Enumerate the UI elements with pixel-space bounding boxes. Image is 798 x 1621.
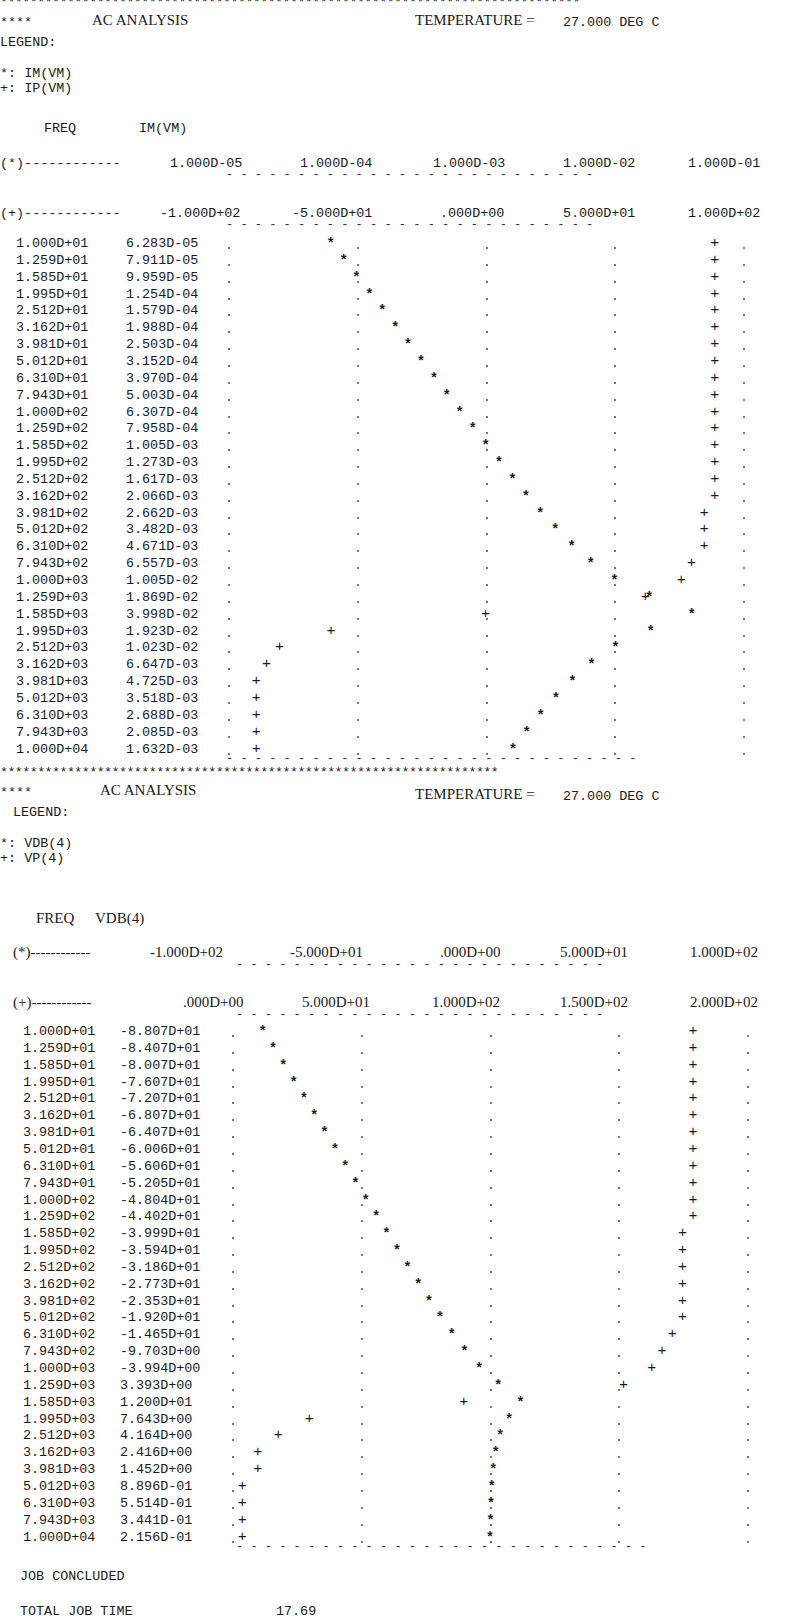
grid-dot: [490, 1321, 492, 1323]
grid-dot: [361, 1035, 363, 1037]
grid-dot: [232, 1237, 234, 1239]
grid-dot: [486, 635, 488, 637]
value-cell: 3.152D-04: [126, 353, 198, 370]
freq-cell: 7.943D+03: [23, 1512, 95, 1529]
grid-dot: [747, 1473, 749, 1475]
axis-plus-tick: .000D+00: [183, 994, 244, 1011]
star-marker: *: [349, 1176, 361, 1193]
plus-marker: +: [687, 1090, 699, 1107]
plus-marker: +: [687, 1208, 699, 1225]
plus-marker: +: [675, 572, 687, 589]
plus-marker: +: [709, 471, 721, 488]
grid-dot: [361, 1423, 363, 1425]
grid-dot: [357, 567, 359, 569]
grid-dot: [618, 1355, 620, 1357]
grid-dot: [486, 314, 488, 316]
value-cell: -3.594D+01: [120, 1242, 200, 1259]
freq-cell: 1.585D+03: [23, 1394, 95, 1411]
value-cell: 1.273D-03: [126, 454, 198, 471]
grid-dot: [232, 1541, 234, 1543]
plus-marker: +: [646, 1360, 658, 1377]
grid-dot: [490, 1305, 492, 1307]
grid-dot: [743, 416, 745, 418]
axis-plus-tick: 2.000D+02: [690, 994, 758, 1011]
grid-dot: [618, 1439, 620, 1441]
axis-dashes: - - - - - - - - - - - - - - - - - - - - …: [226, 218, 593, 232]
grid-dot: [743, 517, 745, 519]
star-marker: *: [441, 388, 453, 405]
grid-dot: [232, 1490, 234, 1492]
star-marker: *: [485, 1496, 497, 1513]
plus-marker: +: [709, 336, 721, 353]
axis-plus-prefix: (+)------------: [13, 994, 91, 1011]
plus-marker: +: [709, 286, 721, 303]
axis-dashes: - - - - - - - - - - - - - - - - - - - - …: [226, 168, 593, 182]
star-marker: *: [514, 1395, 526, 1412]
grid-dot: [486, 331, 488, 333]
grid-dot: [747, 1541, 749, 1543]
grid-dot: [361, 1237, 363, 1239]
grid-dot: [743, 264, 745, 266]
grid-dot: [490, 1204, 492, 1206]
star-marker: *: [492, 1378, 504, 1395]
grid-dot: [747, 1338, 749, 1340]
grid-dot: [228, 668, 230, 670]
grid-dot: [490, 1237, 492, 1239]
grid-dot: [618, 1473, 620, 1475]
grid-dot: [228, 500, 230, 502]
star-marker: *: [329, 1142, 341, 1159]
value-cell: 1.005D-03: [126, 437, 198, 454]
grid-dot: [618, 1119, 620, 1121]
grid-dot: [357, 601, 359, 603]
star-marker: *: [412, 1277, 424, 1294]
value-cell: -7.207D+01: [120, 1090, 200, 1107]
value-cell: -3.994D+00: [120, 1360, 200, 1377]
star-marker: *: [381, 1226, 393, 1243]
grid-dot: [743, 466, 745, 468]
grid-dot: [357, 500, 359, 502]
freq-cell: 3.981D+01: [23, 1124, 95, 1141]
value-cell: 1.617D-03: [126, 471, 198, 488]
freq-cell: 1.000D+01: [23, 1023, 95, 1040]
grid-dot: [357, 264, 359, 266]
plus-marker: +: [709, 437, 721, 454]
grid-dot: [747, 1204, 749, 1206]
star-marker: *: [494, 1428, 506, 1445]
temperature-label: TEMPERATURE =: [415, 786, 535, 803]
freq-cell: 5.012D+01: [23, 1141, 95, 1158]
grid-dot: [743, 584, 745, 586]
grid-dot: [228, 685, 230, 687]
axis-dashes-bottom: - - - - - - - - - - - - - - - - - - - - …: [236, 1540, 646, 1554]
value-cell: 6.647D-03: [126, 656, 198, 673]
grid-dot: [228, 584, 230, 586]
plus-marker: +: [686, 555, 698, 572]
grid-dot: [486, 685, 488, 687]
star-marker: *: [610, 640, 622, 657]
plus-marker: +: [709, 269, 721, 286]
temperature-value: 27.000 DEG C: [563, 788, 659, 805]
grid-dot: [228, 517, 230, 519]
value-cell: 2.688D-03: [126, 707, 198, 724]
grid-dot: [486, 702, 488, 704]
freq-cell: 2.512D+03: [23, 1427, 95, 1444]
plus-marker: +: [272, 1427, 284, 1444]
grid-dot: [486, 736, 488, 738]
freq-cell: 3.981D+03: [23, 1461, 95, 1478]
grid-dot: [361, 1456, 363, 1458]
grid-dot: [486, 483, 488, 485]
value-cell: 4.725D-03: [126, 673, 198, 690]
value-cell: -7.607D+01: [120, 1074, 200, 1091]
freq-cell: 3.981D+02: [16, 505, 88, 522]
grid-dot: [614, 264, 616, 266]
grid-dot: [232, 1389, 234, 1391]
grid-dot: [486, 247, 488, 249]
star-marker: *: [298, 1091, 310, 1108]
grid-dot: [614, 466, 616, 468]
grid-dot: [228, 601, 230, 603]
value-cell: 7.958D-04: [126, 420, 198, 437]
grid-dot: [357, 736, 359, 738]
grid-dot: [618, 1490, 620, 1492]
plus-marker: +: [617, 1377, 629, 1394]
grid-dot: [743, 719, 745, 721]
grid-dot: [232, 1052, 234, 1054]
